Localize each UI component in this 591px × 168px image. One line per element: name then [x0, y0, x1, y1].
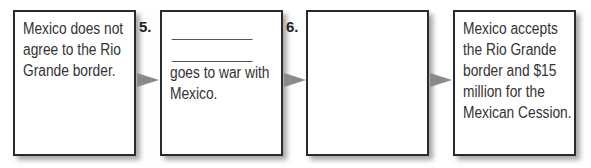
arrow-right-icon — [430, 73, 452, 87]
step-number-5: 5. — [139, 18, 152, 35]
flow-box-4: Mexico accepts the Rio Grande border and… — [453, 10, 576, 156]
arrow-right-icon — [284, 73, 306, 87]
box-4-text: Mexico accepts the Rio Grande border and… — [463, 18, 577, 123]
answer-blank-line-1[interactable] — [172, 18, 253, 40]
box-2-content: goes to war with Mexico. — [170, 18, 284, 104]
box-2-text: goes to war with Mexico. — [170, 64, 269, 102]
flow-box-1: Mexico does not agree to the Rio Grande … — [13, 10, 136, 156]
answer-blank-line-2[interactable] — [172, 40, 253, 62]
box-1-text: Mexico does not agree to the Rio Grande … — [23, 18, 137, 81]
flow-box-2: goes to war with Mexico. — [160, 10, 283, 156]
flow-box-3-answer-blank[interactable] — [306, 10, 429, 156]
step-number-6: 6. — [286, 18, 299, 35]
arrow-right-icon — [137, 73, 159, 87]
